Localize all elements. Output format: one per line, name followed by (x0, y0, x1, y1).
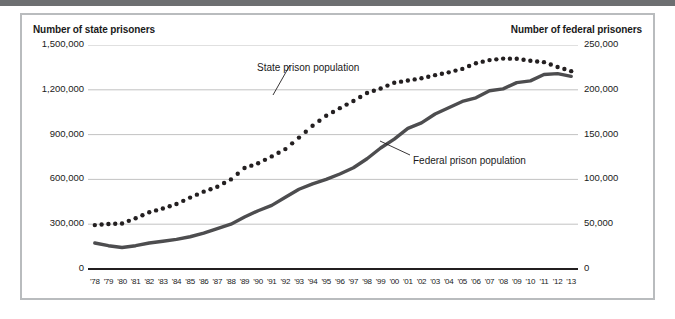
series-dot (426, 75, 430, 79)
left-axis-tick-label: 300,000 (14, 218, 84, 228)
series-dot (297, 135, 301, 139)
left-axis-tick-label: 1,500,000 (14, 39, 84, 49)
right-axis-tick-label: 250,000 (584, 39, 618, 49)
x-axis-tick-label: '78 (88, 275, 102, 289)
series-dot (419, 76, 423, 80)
x-axis-tick-label: '88 (224, 275, 238, 289)
state-series-dots (93, 56, 574, 227)
series-dot (154, 208, 158, 212)
series-dot (535, 59, 539, 63)
series-dot (140, 213, 144, 217)
series-dot (460, 67, 464, 71)
x-axis-tick-label: '91 (265, 275, 279, 289)
x-axis-tick-label: '11 (537, 275, 551, 289)
series-dot (474, 61, 478, 65)
series-dot (188, 195, 192, 199)
x-axis-tick-label: '97 (347, 275, 361, 289)
x-axis-tick-label: '99 (374, 275, 388, 289)
series-dot (358, 95, 362, 99)
x-axis-tick-label: '96 (333, 275, 347, 289)
left-axis-tick-label: 900,000 (14, 129, 84, 139)
series-dot (412, 77, 416, 81)
series-dot (276, 151, 280, 155)
x-axis-tick-label: '07 (483, 275, 497, 289)
x-axis-tick-label: '90 (251, 275, 265, 289)
series-dot (372, 89, 376, 93)
x-axis-tick-label: '86 (197, 275, 211, 289)
series-dot (181, 199, 185, 203)
right-axis-tick-label: 200,000 (584, 84, 618, 94)
federal-series-annotation: Federal prison population (413, 155, 526, 166)
series-dot (215, 185, 219, 189)
series-dot (528, 58, 532, 62)
data-series-layer (93, 56, 574, 247)
x-axis-tick-label: '12 (551, 275, 565, 289)
series-dot (385, 83, 389, 87)
federal-leader-line (380, 141, 410, 155)
x-axis-tick-label: '85 (183, 275, 197, 289)
x-axis-tick-label: '87 (210, 275, 224, 289)
series-dot (392, 81, 396, 85)
series-dot (365, 91, 369, 95)
series-dot (501, 56, 505, 60)
x-axis-tick-label: '04 (442, 275, 456, 289)
series-dot (508, 56, 512, 60)
series-dot (378, 86, 382, 90)
series-dot (453, 68, 457, 72)
series-dot (229, 177, 233, 181)
series-dot (521, 58, 525, 62)
series-dot (487, 58, 491, 62)
x-axis-tick-label: '95 (319, 275, 333, 289)
series-dot (569, 69, 573, 73)
x-axis-tick-label: '83 (156, 275, 170, 289)
series-dot (263, 158, 267, 162)
series-dot (317, 119, 321, 123)
x-axis-tick-label: '10 (524, 275, 538, 289)
series-dot (113, 222, 117, 226)
series-dot (208, 187, 212, 191)
series-dot (161, 206, 165, 210)
series-dot (236, 172, 240, 176)
prison-population-chart-figure: Number of state prisoners Number of fede… (0, 0, 675, 319)
series-dot (344, 102, 348, 106)
x-axis-tick-label: '00 (387, 275, 401, 289)
x-axis-tick-label: '01 (401, 275, 415, 289)
series-dot (446, 70, 450, 74)
top-rule-divider (0, 0, 675, 6)
series-dot (324, 114, 328, 118)
x-axis-tick-label: '05 (455, 275, 469, 289)
series-dot (542, 60, 546, 64)
x-axis-tick-label: '03 (428, 275, 442, 289)
x-axis-tick-label: '82 (142, 275, 156, 289)
series-dot (549, 62, 553, 66)
right-axis-tick-label: 150,000 (584, 129, 618, 139)
right-axis-tick-label: 0 (584, 263, 589, 273)
left-axis-tick-label: 600,000 (14, 173, 84, 183)
series-dot (242, 166, 246, 170)
right-axis-tick-label: 100,000 (584, 173, 618, 183)
series-dot (256, 161, 260, 165)
series-dot (562, 67, 566, 71)
x-axis-tick-label: '09 (510, 275, 524, 289)
series-dot (222, 181, 226, 185)
x-axis-tick-label: '79 (102, 275, 116, 289)
x-axis-tick-label: '98 (360, 275, 374, 289)
series-dot (174, 202, 178, 206)
series-dot (515, 57, 519, 61)
left-axis-tick-label: 0 (14, 263, 84, 273)
series-dot (249, 163, 253, 167)
series-dot (467, 64, 471, 68)
series-dot (201, 189, 205, 193)
x-axis-tick-label: '08 (496, 275, 510, 289)
series-dot (195, 192, 199, 196)
state-series-annotation: State prison population (257, 62, 359, 73)
series-dot (331, 110, 335, 114)
series-dot (127, 219, 131, 223)
series-dot (338, 106, 342, 110)
right-axis-title: Number of federal prisoners (511, 24, 642, 35)
x-axis-tick-label: '84 (170, 275, 184, 289)
series-dot (290, 141, 294, 145)
series-dot (310, 124, 314, 128)
series-dot (133, 216, 137, 220)
x-axis-tick-label: '81 (129, 275, 143, 289)
